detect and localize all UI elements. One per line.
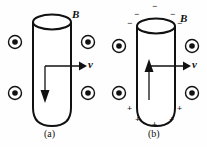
rod-body bbox=[33, 22, 71, 126]
rod-body bbox=[137, 26, 175, 126]
negative-charge-sign: − bbox=[152, 2, 157, 11]
panel-a: B v (a) bbox=[0, 0, 103, 147]
negative-charge-sign: − bbox=[170, 10, 175, 19]
negative-charge-sign: − bbox=[127, 19, 132, 28]
positive-charge-sign: + bbox=[127, 104, 132, 113]
velocity-label: v bbox=[192, 59, 197, 70]
magnetic-field-label: B bbox=[180, 13, 187, 24]
rod-top-rim bbox=[137, 19, 175, 34]
velocity-label: v bbox=[88, 59, 93, 70]
rod-top-rim bbox=[33, 15, 71, 30]
panel-b-caption: (b) bbox=[148, 129, 160, 139]
magnetic-field-label: B bbox=[72, 9, 79, 20]
panel-b: −−−−−+++++ B v (b) bbox=[104, 0, 207, 147]
positive-charge-sign: + bbox=[169, 115, 174, 124]
panel-a-drawing bbox=[0, 0, 103, 147]
negative-charge-sign: − bbox=[134, 10, 139, 19]
positive-charge-sign: + bbox=[177, 104, 182, 113]
physics-figure-rod-in-magnetic-field: B v (a) bbox=[0, 0, 207, 147]
positive-charge-sign: + bbox=[135, 115, 140, 124]
panel-a-caption: (a) bbox=[44, 129, 55, 139]
